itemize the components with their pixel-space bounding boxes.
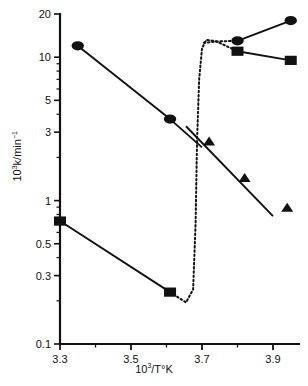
data-point-circle <box>164 114 176 123</box>
data-point-triangle <box>239 173 251 182</box>
x-axis-title-unit: /T°K <box>151 363 173 375</box>
chart-figure: 20105310.50.30.13.33.53.73.9 103k/min−1 … <box>0 0 308 386</box>
series-trend-line-triangles <box>186 126 273 216</box>
y-axis-tick-label: 3 <box>45 126 51 138</box>
x-axis-title: 103/T°K <box>0 362 308 375</box>
y-axis-title-unit-exponent: −1 <box>11 131 18 139</box>
y-axis-tick-label: 0.3 <box>36 270 51 282</box>
data-point-triangle <box>281 203 293 212</box>
data-point-square <box>54 216 66 225</box>
series-dotted-dotted-transition-curve <box>170 40 237 303</box>
y-axis-tick-label: 5 <box>45 94 51 106</box>
data-point-square <box>232 47 244 56</box>
series-line-circles-high-rate-branch <box>238 21 291 41</box>
y-axis-tick-label: 0.5 <box>36 238 51 250</box>
data-point-circle <box>72 41 84 50</box>
y-axis-title-exponent: 3 <box>11 165 18 169</box>
x-axis-title-base: 10 <box>135 363 147 375</box>
data-point-circle <box>285 16 297 25</box>
series-line-circles-low-temperature-branch <box>78 46 170 119</box>
y-axis-title-base: 10 <box>11 169 23 181</box>
y-axis-title: 103k/min−1 <box>11 113 24 199</box>
data-point-triangle <box>203 137 215 146</box>
y-axis-tick-label: 0.1 <box>36 338 51 350</box>
y-axis-title-unit: k/min <box>11 139 23 165</box>
y-axis-tick-label: 1 <box>45 195 51 207</box>
series-line-squares-high-rate-branch <box>238 51 291 60</box>
data-point-square <box>285 56 297 65</box>
series-line-squares-low-rate-branch <box>60 221 170 292</box>
arrhenius-plot: 20105310.50.30.13.33.53.73.9 <box>0 0 308 386</box>
y-axis-tick-label: 10 <box>39 51 51 63</box>
y-axis-tick-label: 20 <box>39 8 51 20</box>
